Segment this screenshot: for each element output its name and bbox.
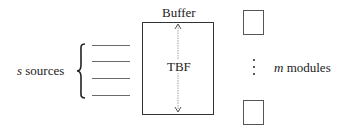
sources-text: sources [25, 63, 64, 78]
module-box-last [243, 100, 264, 125]
source-line [92, 78, 130, 79]
source-line [92, 95, 130, 96]
sources-label: s sources [17, 64, 64, 77]
diagram-canvas: s sources Buffer TBF m modules [0, 0, 351, 134]
buffer-title: Buffer [162, 6, 196, 19]
modules-text: modules [287, 60, 331, 75]
module-box-first [243, 10, 264, 35]
modules-label: m modules [274, 61, 331, 74]
modules-variable: m [274, 60, 283, 75]
curly-brace-icon [76, 43, 88, 99]
source-line [92, 61, 130, 62]
source-line [92, 45, 130, 46]
vertical-ellipsis-icon [252, 58, 256, 78]
sources-variable: s [17, 63, 22, 78]
tbf-label: TBF [166, 60, 192, 73]
